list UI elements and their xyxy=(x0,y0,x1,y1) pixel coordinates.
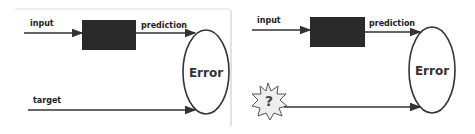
prediction-label: prediction xyxy=(369,19,415,28)
panel-supervised: input prediction Error target xyxy=(24,19,229,114)
model-black-box xyxy=(310,17,365,47)
model-black-box xyxy=(82,20,136,50)
input-label: input xyxy=(257,16,281,25)
unknown-symbol: ? xyxy=(265,93,273,109)
input-label: input xyxy=(30,19,54,28)
error-label: Error xyxy=(415,64,449,78)
prediction-label: prediction xyxy=(141,21,187,30)
diagram-canvas: input prediction Error target input pred… xyxy=(0,0,475,134)
panel-unknown-target: input prediction Error ? xyxy=(252,16,455,120)
error-label: Error xyxy=(189,66,223,80)
target-label: target xyxy=(33,96,61,105)
